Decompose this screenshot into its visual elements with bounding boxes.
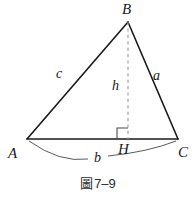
geometry-figure: A B C H c a b h 圖7–9 (0, 0, 196, 204)
altitude-label-h: h (112, 79, 119, 93)
triangle-diagram-svg (0, 0, 196, 204)
figure-caption-number: 7–9 (94, 176, 116, 191)
side-label-c: c (56, 67, 62, 81)
right-angle-marker (117, 128, 128, 139)
vertex-label-c: C (178, 145, 188, 160)
foot-label-h: H (118, 142, 129, 157)
side-label-a: a (153, 69, 160, 83)
side-label-b: b (94, 151, 101, 165)
figure-caption-cjk-word: 圖 (80, 176, 94, 191)
figure-caption: 圖7–9 (0, 176, 196, 192)
vertex-label-b: B (122, 2, 131, 17)
base-measure-arc-left (29, 141, 88, 160)
vertex-label-a: A (8, 146, 17, 161)
